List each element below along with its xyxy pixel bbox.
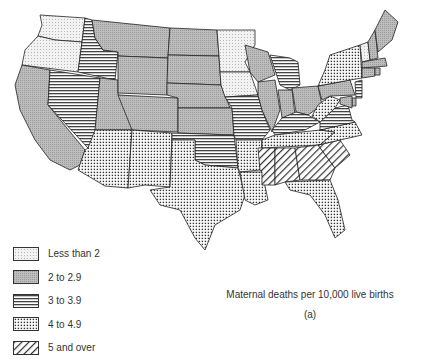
legend-label: 4 to 4.9 [48, 319, 81, 330]
state-ar [236, 140, 262, 172]
legend-swatch-horizontal-lines [13, 294, 39, 308]
state-wy [118, 56, 168, 95]
legend-swatch-diagonal-hatch [13, 341, 39, 355]
legend-label: 3 to 3.9 [48, 295, 81, 306]
state-de [352, 98, 356, 106]
legend-swatch-fine-dots [13, 247, 39, 261]
state-nj [355, 80, 362, 98]
state-ct [362, 68, 375, 78]
legend-label: 2 to 2.9 [48, 272, 81, 283]
legend-label: 5 and over [48, 342, 95, 353]
legend-item: 3 to 3.9 [13, 289, 100, 313]
legend-item: 4 to 4.9 [13, 313, 100, 337]
map-caption: Maternal deaths per 10,000 live births [205, 289, 415, 300]
legend-item: 5 and over [13, 336, 100, 359]
state-ri [375, 68, 380, 75]
state-ks [178, 108, 234, 135]
legend-item: 2 to 2.9 [13, 266, 100, 290]
figure-label: (a) [205, 309, 415, 320]
state-ia [220, 72, 258, 97]
legend-swatch-gray-stipple [13, 270, 39, 284]
state-fl [285, 180, 345, 238]
legend: Less than 22 to 2.93 to 3.94 to 4.95 and… [13, 242, 100, 359]
state-nd [168, 28, 219, 56]
legend-label: Less than 2 [48, 248, 100, 259]
state-sd [167, 55, 221, 85]
state-me [375, 10, 398, 52]
legend-swatch-dot-grid [13, 317, 39, 331]
legend-item: Less than 2 [13, 242, 100, 266]
state-ny [318, 45, 362, 86]
state-nm [128, 130, 172, 188]
